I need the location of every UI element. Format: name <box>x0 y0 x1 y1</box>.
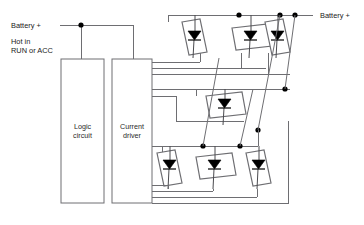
led-top-right[interactable] <box>265 15 290 58</box>
led-bottom-mid[interactable] <box>196 146 236 189</box>
logic-circuit-label-line1: Logic <box>74 122 92 131</box>
schematic-canvas: Logic circuit Current driver <box>0 0 364 225</box>
current-driver-label-line1: Current <box>120 122 144 131</box>
logic-circuit-label-line2: circuit <box>73 131 92 140</box>
driver-out-2-riser <box>241 53 266 68</box>
battery-left-label: Battery + <box>11 21 41 30</box>
hot-in-label-line1: Hot in <box>11 37 30 46</box>
node-top-rail-1 <box>236 12 241 17</box>
current-driver-label-line2: driver <box>123 131 142 140</box>
current-driver-block[interactable]: Current driver <box>112 59 152 203</box>
hot-in-label-line2: RUN or ACC <box>11 46 54 55</box>
battery-left-net <box>60 22 133 59</box>
driver-out-3-riser <box>268 53 290 74</box>
led-bottom-right[interactable] <box>246 146 271 189</box>
battery-right-label: Battery + <box>320 11 350 20</box>
led-bottom-left[interactable] <box>157 146 182 189</box>
logic-circuit-block[interactable]: Logic circuit <box>61 59 104 203</box>
node-battery-left <box>78 22 83 27</box>
circuit-diagram: Logic circuit Current driver <box>0 0 364 225</box>
led-top-left[interactable] <box>182 15 207 58</box>
